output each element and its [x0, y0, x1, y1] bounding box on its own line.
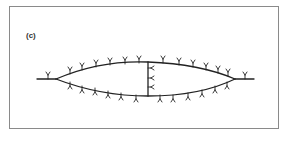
- center-bridge-markers: [148, 66, 154, 89]
- bottom-curve-strand: [56, 79, 235, 96]
- top-curve-markers: [46, 56, 247, 79]
- lens-diagram: [0, 0, 287, 143]
